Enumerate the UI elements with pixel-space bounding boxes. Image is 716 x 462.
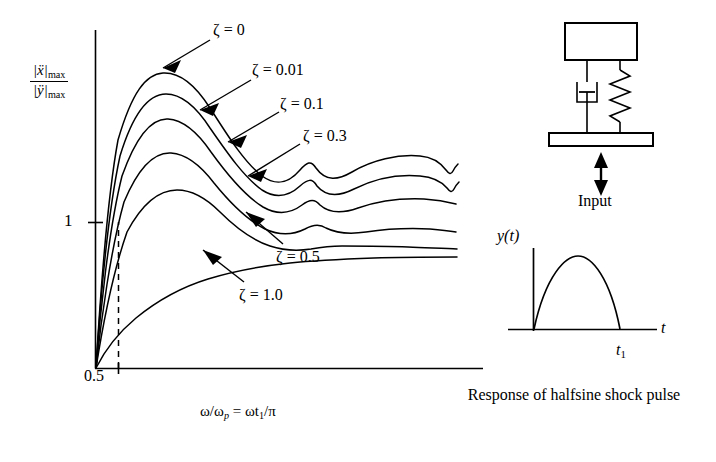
- pulse-t1-sub: 1: [620, 348, 625, 360]
- arrow-line-zeta-01: [228, 112, 279, 142]
- curve-label-zeta-03: ζ = 0.3: [303, 128, 347, 144]
- curve-zeta-0: [96, 73, 458, 368]
- arrow-line-zeta-0: [163, 40, 210, 68]
- curve-zeta-001: [96, 94, 459, 368]
- x-axis-label-part1: ω/ω: [200, 403, 224, 419]
- curve-label-zeta-10: ζ = 1.0: [239, 287, 283, 303]
- plot-axes: [88, 30, 483, 374]
- y-axis-tick-label-1: 1: [64, 212, 73, 229]
- y-axis-label: |ẍ|max |ÿ|max: [30, 62, 68, 102]
- response-curves: [96, 73, 459, 368]
- pulse-t1-label: t1: [616, 342, 626, 360]
- halfsine-pulse-plot: [508, 248, 657, 331]
- input-label: Input: [578, 193, 612, 209]
- y-axis-numerator-sub: max: [48, 69, 66, 80]
- pulse-x-axis-label: t: [661, 320, 665, 336]
- curve-zeta-05: [96, 190, 457, 368]
- y-axis-denominator: |ÿ|max: [30, 82, 68, 101]
- pulse-curve: [534, 256, 620, 329]
- figure-caption: Response of halfsine shock pulse: [467, 385, 681, 405]
- curve-label-zeta-05: ζ = 0.5: [276, 249, 320, 265]
- x-axis-label-part2: = ωt: [229, 403, 259, 419]
- arrow-line-zeta-001: [200, 80, 251, 110]
- input-double-arrow: [594, 152, 608, 196]
- curve-label-zeta-001: ζ = 0.01: [252, 62, 304, 78]
- curve-label-zeta-0: ζ = 0: [213, 22, 245, 38]
- x-axis-label-part3: /π: [264, 403, 276, 419]
- y-axis-numerator-symbol: |ẍ|: [33, 62, 48, 78]
- arrow-line-zeta-03: [248, 144, 300, 176]
- x-axis-tick-label-05: 0.5: [84, 368, 104, 384]
- x-axis-label: ω/ωp = ωt1/π: [200, 404, 276, 421]
- y-axis-numerator: |ẍ|max: [30, 62, 68, 82]
- curve-zeta-10: [96, 257, 457, 368]
- y-axis-denominator-sub: max: [48, 89, 66, 100]
- y-axis-denominator-symbol: |ÿ|: [33, 82, 48, 98]
- base-excited-system-diagram: [549, 23, 653, 196]
- mass-block: [565, 23, 637, 60]
- base-plate: [549, 133, 653, 146]
- spring-symbol: [610, 70, 630, 122]
- pulse-y-axis-label: y(t): [497, 228, 519, 244]
- curve-label-zeta-01: ζ = 0.1: [280, 96, 324, 112]
